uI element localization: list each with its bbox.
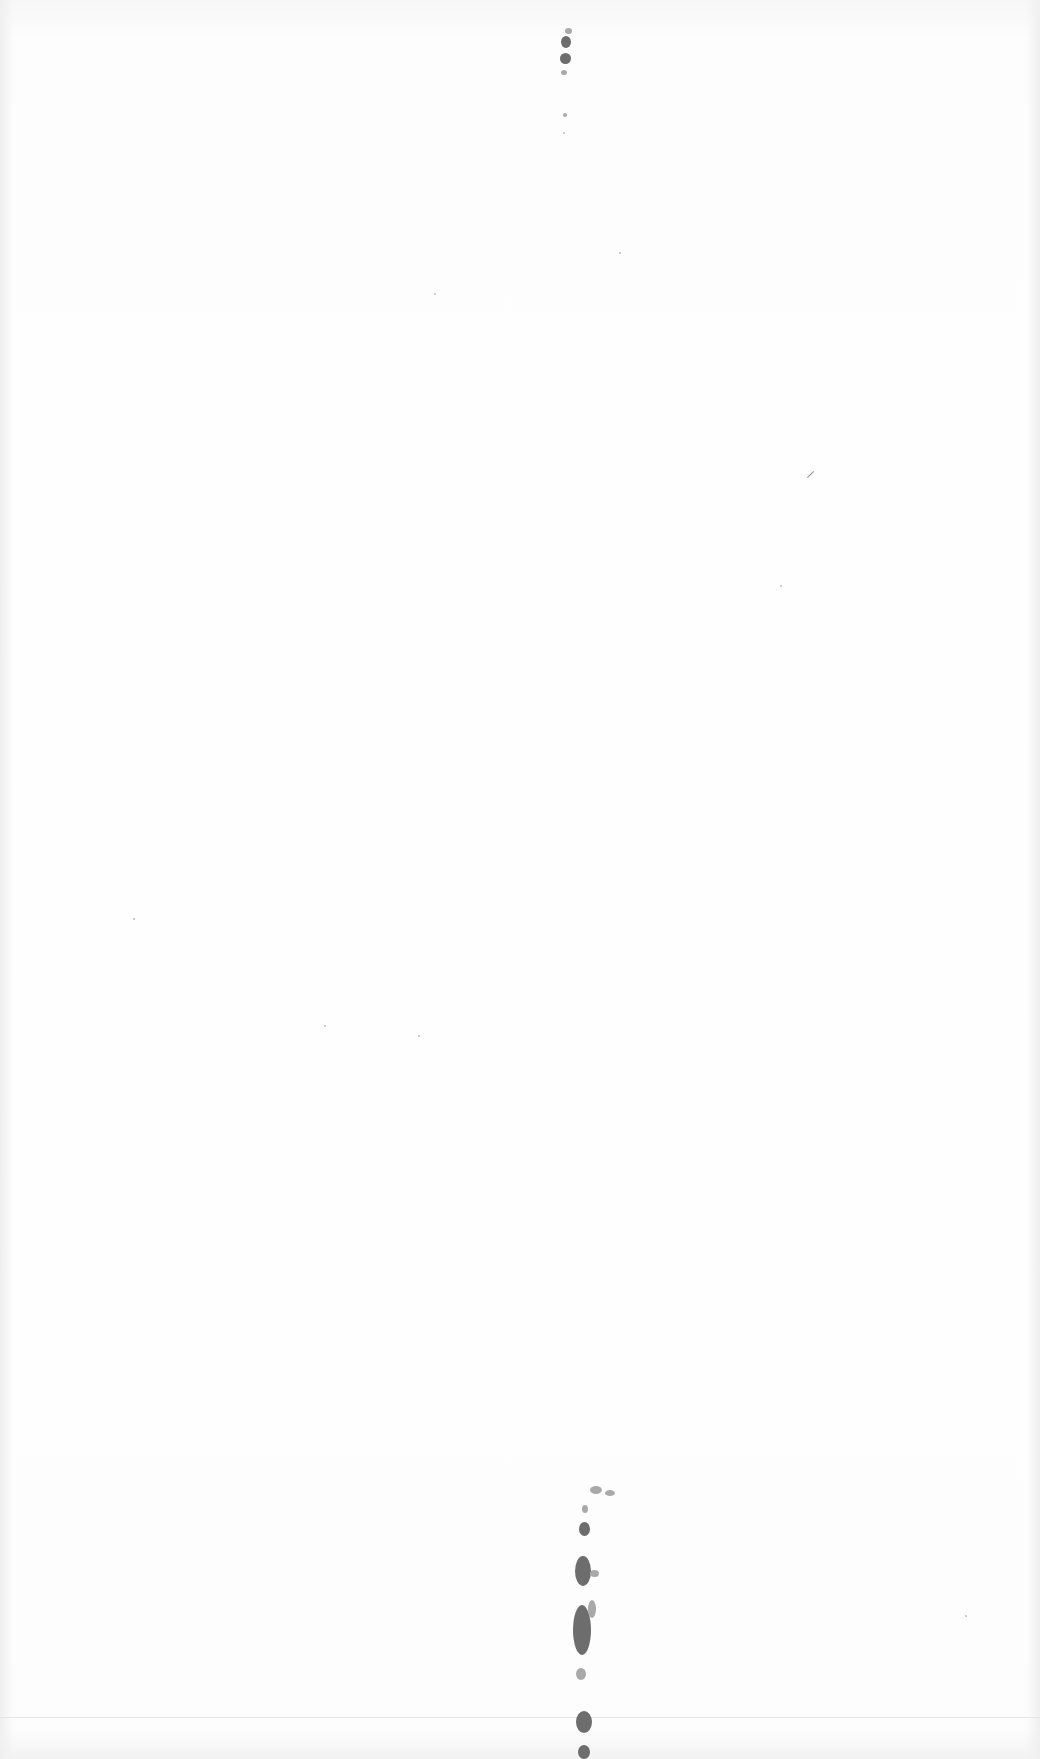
scan-fold-line [0, 1717, 1040, 1718]
page-edge-shadow-right [1026, 0, 1040, 1759]
page-edge-shadow-left [0, 0, 14, 1759]
scanned-blank-page [0, 0, 1040, 1759]
